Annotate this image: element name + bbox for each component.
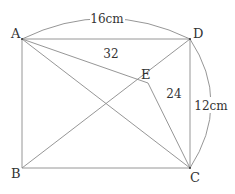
segment-ae: [22, 39, 148, 83]
region-value-dec: 24: [166, 87, 182, 101]
dimension-label-dc: 12cm: [194, 99, 228, 113]
dimension-label-ad: 16cm: [90, 12, 124, 26]
vertex-label-d: D: [193, 26, 203, 41]
vertex-label-e: E: [141, 67, 151, 82]
vertex-a-dot: [21, 38, 23, 40]
vertex-label-c: C: [190, 170, 200, 185]
region-value-aed: 32: [103, 47, 118, 61]
vertex-c-dot: [189, 167, 191, 169]
vertex-d-dot: [189, 38, 191, 40]
vertex-label-b: B: [11, 166, 21, 181]
geometry-figure: 16cm 12cm 32 24 A D B C E: [0, 0, 235, 194]
vertex-label-a: A: [10, 26, 21, 41]
